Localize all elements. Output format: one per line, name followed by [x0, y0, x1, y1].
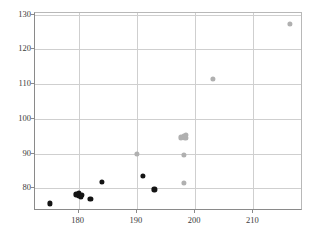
data-point	[99, 180, 104, 185]
gridline-vertical	[253, 13, 254, 209]
gridline-horizontal	[35, 154, 301, 155]
data-point	[134, 151, 139, 156]
data-point	[88, 196, 93, 201]
data-point	[80, 192, 85, 197]
gridline-horizontal	[35, 49, 301, 50]
data-point	[152, 187, 157, 192]
y-tick-label: 90	[23, 149, 32, 158]
x-tick-mark	[136, 210, 137, 213]
gridline-horizontal	[35, 119, 301, 120]
x-tick-mark	[252, 210, 253, 213]
gridline-vertical	[137, 13, 138, 209]
x-axis: 180190200210	[0, 216, 310, 230]
y-tick-label: 110	[19, 79, 31, 88]
y-tick-label: 130	[18, 10, 31, 19]
y-tick-mark	[31, 187, 34, 188]
data-point	[47, 201, 52, 206]
x-tick-mark	[78, 210, 79, 213]
data-point	[287, 22, 292, 27]
y-tick-label: 80	[23, 183, 32, 192]
gridline-horizontal	[35, 84, 301, 85]
y-tick-label: 100	[18, 114, 31, 123]
x-tick-mark	[194, 210, 195, 213]
gridline-horizontal	[35, 15, 301, 16]
x-tick-label: 180	[71, 216, 84, 225]
y-tick-mark	[31, 83, 34, 84]
y-tick-mark	[31, 48, 34, 49]
gridline-horizontal	[35, 188, 301, 189]
data-point	[181, 180, 186, 185]
y-tick-mark	[31, 14, 34, 15]
data-point	[181, 152, 186, 157]
y-tick-mark	[31, 153, 34, 154]
x-tick-label: 190	[130, 216, 143, 225]
y-tick-mark	[31, 118, 34, 119]
plot-area	[34, 12, 302, 210]
y-axis: 8090100110120130	[0, 0, 31, 237]
gridline-vertical	[195, 13, 196, 209]
x-tick-label: 210	[246, 216, 259, 225]
scatter-chart: 8090100110120130 180190200210	[0, 0, 310, 237]
data-point	[210, 76, 215, 81]
x-tick-label: 200	[188, 216, 201, 225]
gridline-vertical	[79, 13, 80, 209]
data-point	[140, 173, 145, 178]
y-tick-label: 120	[18, 44, 31, 53]
